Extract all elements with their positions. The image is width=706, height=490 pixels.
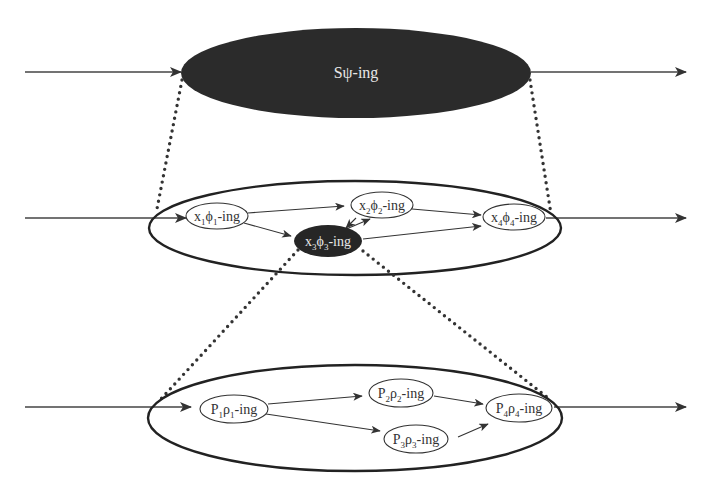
node-p3: P3ρ3-ing [384,425,448,453]
edge-x1-x3 [244,223,291,236]
node-x2: x2ϕ2-ing [351,192,413,218]
edge-x3-x4 [363,226,481,239]
edge-x2-x4 [412,209,481,215]
middle-level: x1ϕ1-ing x2ϕ2-ing x4ϕ4-ing x3ϕ3-ing [25,181,686,275]
node-x1: x1ϕ1-ing [186,203,248,229]
node-p1: P1ρ1-ing [200,395,268,423]
edge-p1-p3 [266,414,380,431]
node-x3-focus: x3ϕ3-ing [294,225,362,257]
edge-p2-p4 [434,396,483,404]
zoom-line-right-bottom [363,251,548,398]
node-x4: x4ϕ4-ing [483,204,545,230]
process-hierarchy-diagram: Sψ-ing x1ϕ1-ing x2ϕ2-ing [0,0,706,490]
edge-p3-p4 [458,424,488,437]
node-p4: P4ρ4-ing [486,394,552,422]
zoom-line-right-top [530,80,551,214]
bottom-level: P1ρ1-ing P2ρ2-ing P3ρ3-ing P4ρ4-ing [25,365,686,471]
zoom-line-left-top [156,80,182,214]
edge-p1-p2 [268,396,362,404]
top-process-label: Sψ-ing [334,64,379,82]
node-p2: P2ρ2-ing [369,379,433,407]
top-level: Sψ-ing [25,28,686,118]
edge-x1-x2 [248,206,344,213]
